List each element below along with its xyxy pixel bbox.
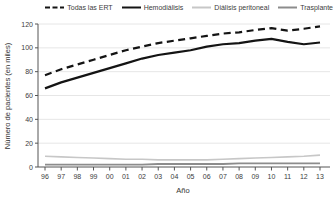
y-axis-title: Número de pacientes (en miles) [3,42,12,149]
x-tick-label: 97 [57,173,65,180]
x-tick-label: 96 [41,173,49,180]
y-tick-label: 40 [25,116,33,123]
x-tick-label: 98 [73,173,81,180]
series-line-trasplante [45,163,320,164]
x-axis-title: Año [176,186,189,195]
x-tick-label: 04 [171,173,179,180]
y-tick-label: 0 [29,164,33,171]
x-tick-label: 07 [219,173,227,180]
x-tick-label: 05 [187,173,195,180]
line-chart-figure: Todas las ERTHemodiálisisDiálisis perito… [0,0,334,204]
line-chart: 0204060801001209697989900010203040506070… [0,0,334,204]
x-tick-label: 06 [203,173,211,180]
x-tick-label: 09 [251,173,259,180]
y-tick-label: 100 [21,44,33,51]
x-tick-label: 00 [106,173,114,180]
x-tick-label: 02 [138,173,146,180]
x-tick-label: 10 [268,173,276,180]
y-tick-label: 80 [25,68,33,75]
y-tick-label: 120 [21,21,33,28]
series-line-di-lisis-peritoneal [45,155,320,160]
series-line-hemodi-lisis [45,39,320,88]
x-tick-label: 01 [122,173,130,180]
x-tick-label: 03 [154,173,162,180]
tick-labels: 0204060801001209697989900010203040506070… [21,21,324,180]
x-tick-label: 11 [284,173,291,180]
x-tick-label: 08 [235,173,243,180]
y-tick-label: 20 [25,140,33,147]
x-tick-label: 99 [90,173,98,180]
y-tick-label: 60 [25,92,33,99]
x-tick-label: 12 [300,173,308,180]
axes [35,24,330,171]
x-tick-label: 13 [316,173,324,180]
